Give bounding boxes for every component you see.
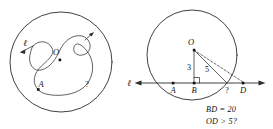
left-point-a-label: A — [37, 79, 44, 89]
right-point-a-dot — [172, 82, 175, 85]
right-point-b-dot — [193, 82, 196, 85]
right-center-label: O — [188, 37, 194, 47]
right-line-label: ℓ — [127, 78, 131, 88]
left-center-dot — [59, 59, 62, 62]
right-arrowhead-west — [135, 81, 142, 86]
right-point-a-label: A — [169, 85, 176, 95]
left-line-label: ℓ — [23, 38, 27, 48]
right-center-dot — [193, 49, 196, 52]
segment-ob-length-label: 3 — [187, 63, 191, 72]
caption-od: OD > 5? — [206, 117, 238, 126]
left-center-label: O — [53, 47, 59, 57]
left-figure: O A ℓ ? — [10, 12, 112, 112]
left-outer-circle — [10, 12, 112, 112]
right-figure: ℓ O A B D ? 3 5 BD = 20 OD > 5? — [127, 10, 265, 126]
left-unknown-label: ? — [85, 80, 89, 89]
segment-o-to-intersection — [194, 50, 227, 83]
segment-oc-length-label: 5 — [205, 65, 209, 74]
caption-bd: BD = 20 — [206, 105, 236, 114]
right-point-d-label: D — [239, 85, 247, 95]
geometry-figure-canvas: O A ℓ ? ℓ O A B — [0, 0, 273, 129]
right-point-d-dot — [242, 82, 245, 85]
right-point-b-label: B — [191, 85, 196, 95]
right-arrowhead-east — [259, 81, 266, 86]
right-unknown-label: ? — [225, 86, 229, 95]
